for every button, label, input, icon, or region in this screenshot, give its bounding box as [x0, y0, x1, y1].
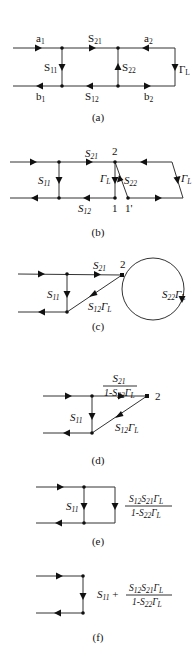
- label-gamma-l: ΓL: [179, 63, 190, 77]
- caption-b: (b): [92, 226, 105, 239]
- node: [81, 574, 85, 578]
- panel-e: S11 S12S21ΓL 1-S22ΓL (e): [36, 484, 172, 549]
- node: [116, 84, 120, 88]
- node: [82, 521, 86, 525]
- caption-e: (e): [92, 535, 105, 548]
- label-s12-gamma-l: S12ΓL: [88, 300, 111, 314]
- panel-d: S21 1-S22ΓL 2 S11 S12ΓL (d): [43, 372, 161, 467]
- caption-d: (d): [92, 454, 105, 467]
- label-s12: S12: [78, 202, 91, 216]
- arrow-down-icon: [112, 503, 119, 510]
- arrow-right-icon: [30, 159, 37, 166]
- arrow-left-icon: [86, 83, 93, 90]
- label-s21: S21: [85, 147, 98, 161]
- node: [65, 272, 69, 276]
- arrow-down-icon: [112, 177, 119, 184]
- arrow-left-icon: [140, 159, 147, 166]
- node: [90, 394, 94, 398]
- label-s11: S11: [70, 411, 82, 425]
- fraction-numerator: S12S21ΓL: [129, 494, 163, 506]
- label-node-2: 2: [112, 145, 118, 157]
- arrow-down-icon: [80, 593, 87, 600]
- arrow-left-icon: [31, 195, 38, 202]
- signal-flow-graph-figure: a1 S21 a2 S11 S22 ΓL b1 S12 b2 (a) S21: [0, 0, 196, 670]
- node: [57, 196, 61, 200]
- label-a1: a1: [36, 32, 45, 46]
- arrow-left-icon: [36, 83, 43, 90]
- label-node-2: 2: [155, 390, 161, 402]
- node-2: [120, 273, 124, 277]
- arrow-right-icon: [155, 195, 162, 202]
- caption-f: (f): [93, 631, 104, 644]
- node: [116, 46, 120, 50]
- label-s22: S22: [122, 61, 136, 75]
- arrow-up-icon: [115, 63, 122, 70]
- label-s22-gamma-l: S22ΓL: [162, 288, 185, 302]
- label-b1: b1: [36, 90, 46, 104]
- node-1: [113, 196, 117, 200]
- label-s11: S11: [38, 174, 50, 188]
- node: [60, 46, 64, 50]
- node: [82, 485, 86, 489]
- label-b2: b2: [144, 90, 154, 104]
- node: [57, 160, 61, 164]
- fraction-numerator: S12S21ΓL: [129, 583, 163, 595]
- label-s11: S11: [47, 288, 59, 302]
- arrow-left-icon: [54, 610, 61, 617]
- panel-b: S21 2 S11 ΓL S22 ΓL S12 1 1' (b): [10, 145, 191, 239]
- arrow-down-icon: [81, 503, 88, 510]
- node-2: [145, 394, 149, 398]
- fraction-denominator: 1-S22ΓL: [131, 508, 161, 520]
- node-2: [113, 160, 117, 164]
- arrow-down-icon: [174, 176, 181, 184]
- fraction-numerator: S21: [113, 372, 126, 386]
- panel-f: S11 + S12S21ΓL 1-S22ΓL (f): [36, 573, 172, 645]
- label-s11: S11: [66, 500, 78, 514]
- arrow-left-icon: [83, 195, 90, 202]
- arrow-down-icon: [172, 64, 179, 71]
- label-a2: a2: [144, 32, 153, 46]
- panel-c: S21 2 S11 S12ΓL S22ΓL (c): [18, 258, 186, 333]
- label-s21: S21: [93, 259, 106, 273]
- arrow-down-left-icon: [89, 290, 98, 297]
- node: [90, 431, 94, 435]
- fraction-denominator: 1-S22ΓL: [132, 597, 162, 609]
- label-s12: S12: [85, 90, 99, 104]
- arrow-right-icon: [144, 83, 151, 90]
- fraction-denominator: 1-S22ΓL: [104, 387, 135, 400]
- arrow-left-icon: [55, 520, 62, 527]
- label-s22: S22: [124, 174, 137, 188]
- label-node-2: 2: [120, 258, 126, 270]
- label-s11-plus: S11 +: [97, 588, 118, 602]
- arrow-down-left-icon: [115, 411, 124, 418]
- arrow-down-icon: [89, 413, 96, 420]
- node: [81, 611, 85, 615]
- label-s21: S21: [88, 32, 102, 46]
- label-s11: S11: [44, 61, 58, 75]
- arrow-left-icon: [63, 430, 70, 437]
- label-gamma-l-right: ΓL: [180, 172, 191, 186]
- caption-a: (a): [92, 111, 105, 124]
- node: [65, 310, 69, 314]
- arrow-right-icon: [38, 271, 45, 278]
- node-1-prime: [126, 196, 130, 200]
- label-node-1-prime: 1': [125, 202, 133, 214]
- arrow-down-icon: [59, 64, 66, 71]
- caption-c: (c): [92, 320, 105, 333]
- arrow-left-icon: [38, 309, 45, 316]
- arrow-down-icon: [56, 177, 63, 184]
- arrow-right-icon: [57, 484, 64, 491]
- node: [60, 84, 64, 88]
- label-s12-gamma-l: S12ΓL: [115, 421, 138, 435]
- label-gamma-l-inner: ΓL: [99, 172, 110, 186]
- arrow-right-icon: [65, 393, 72, 400]
- label-node-1: 1: [112, 202, 118, 214]
- arrow-down-icon: [64, 291, 71, 298]
- panel-a: a1 S21 a2 S11 S22 ΓL b1 S12 b2 (a): [13, 32, 190, 124]
- arrow-right-icon: [56, 573, 63, 580]
